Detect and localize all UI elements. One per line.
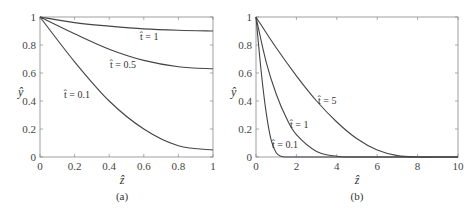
plot-frame-b — [256, 17, 458, 157]
annotation-b-t01: t̂ = 0.1 — [271, 139, 298, 150]
annotation-a-t05: t̂ = 0.5 — [109, 59, 136, 70]
y-tick-label: 0.2 — [238, 123, 252, 135]
curve-line — [256, 17, 458, 157]
y-tick-label: 1 — [247, 11, 253, 23]
x-tick-label: 0.8 — [172, 160, 186, 172]
y-tick-label: 0 — [247, 151, 253, 163]
x-tick-label: 0.4 — [102, 160, 116, 172]
y-tick-label: 0.8 — [238, 39, 252, 51]
y-tick-label: 0 — [31, 151, 37, 163]
curve-line — [40, 17, 213, 150]
curve-line — [256, 17, 458, 157]
curves-b — [256, 17, 458, 157]
annotation-b-t1: t̂ = 1 — [289, 119, 308, 130]
y-tick-label: 0.8 — [22, 39, 36, 51]
y-tick-label: 0.6 — [22, 67, 36, 79]
x-tick-label: 2 — [294, 160, 300, 172]
y-tick-label: 0.2 — [22, 123, 36, 135]
x-tick-label: 6 — [374, 160, 380, 172]
y-tick-label: 0.6 — [238, 67, 252, 79]
annotation-a-t01: t̂ = 0.1 — [63, 89, 90, 100]
y-axis-label-a: ŷ — [17, 85, 24, 99]
curves-a — [40, 17, 213, 150]
x-tick-label: 0.2 — [68, 160, 82, 172]
plot-frame-a — [40, 17, 213, 157]
x-tick-label: 0 — [37, 160, 43, 172]
panel-b: 024681000.20.40.60.81 ŷ ẑ (b) t̂ = 5 t̂ … — [230, 11, 464, 203]
figure: 00.20.40.60.8100.20.40.60.81 ŷ ẑ (a) t̂ … — [0, 0, 474, 208]
x-tick-label: 0 — [253, 160, 259, 172]
y-axis-label-b: ŷ — [230, 85, 237, 99]
x-tick-label: 1 — [210, 160, 216, 172]
x-tick-label: 4 — [334, 160, 340, 172]
x-axis-label-a: ẑ — [119, 173, 125, 187]
y-tick-label: 0.4 — [22, 95, 36, 107]
x-tick-label: 0.6 — [137, 160, 151, 172]
y-tick-label: 1 — [31, 11, 37, 23]
x-tick-label: 8 — [415, 160, 421, 172]
curve-line — [256, 17, 458, 157]
annotation-b-t5: t̂ = 5 — [317, 95, 336, 106]
annotation-a-t1: t̂ = 1 — [139, 31, 158, 42]
y-tick-label: 0.4 — [238, 95, 252, 107]
panel-a: 00.20.40.60.8100.20.40.60.81 ŷ ẑ (a) t̂ … — [17, 11, 216, 203]
caption-b: (b) — [351, 190, 364, 203]
x-tick-label: 10 — [453, 160, 465, 172]
x-axis-label-b: ẑ — [354, 173, 360, 187]
curve-line — [40, 17, 213, 31]
caption-a: (a) — [116, 190, 129, 203]
